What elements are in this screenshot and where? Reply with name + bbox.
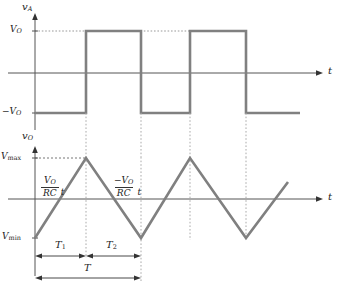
bottom-y-axis-label: vO [22,131,33,142]
waveform-svg [0,0,342,287]
slope-formula-rising: VO RC t [41,176,64,198]
t2-arrow-right [134,254,141,259]
slope-falling-fraction: −VO RC [112,176,135,198]
bottom-x-axis-arrowhead [316,196,323,202]
period-label-t: T [84,263,91,273]
t-period-arrow-left [35,276,42,281]
t2-arrow-left [86,254,93,259]
waveform-figure: vA t VO −VO vO t Vmax Vmin VO RC t −VO R… [0,0,342,287]
t1-arrow-right [79,254,86,259]
slope-falling-denominator: RC [115,187,133,198]
slope-falling-numerator: −VO [112,176,135,187]
square-wave-trace [35,31,300,113]
top-y-axis-label: vA [22,2,32,13]
bottom-y-axis-arrowhead [32,146,38,153]
t-period-arrow-right [134,276,141,281]
slope-rising-variable: t [59,188,65,198]
top-y-axis-arrowhead [32,13,38,20]
triangle-wave-trace [35,158,288,238]
t1-arrow-left [35,254,42,259]
slope-falling-variable: t [135,188,141,198]
top-x-axis-arrowhead [316,70,323,76]
interval-label-t2: T2 [106,240,117,251]
slope-rising-numerator: VO [42,176,58,187]
slope-rising-fraction: VO RC [41,176,59,198]
top-tick-label-vo: VO [10,25,22,35]
bottom-x-axis-label: t [328,192,332,202]
interval-label-t1: T1 [55,240,66,251]
bottom-tick-label-vmin: Vmin [2,232,21,242]
top-x-axis-label: t [328,66,332,76]
slope-formula-falling: −VO RC t [112,176,141,198]
slope-rising-denominator: RC [41,187,59,198]
bottom-tick-label-vmax: Vmax [1,152,21,162]
top-tick-label-neg-vo: −VO [2,107,21,117]
